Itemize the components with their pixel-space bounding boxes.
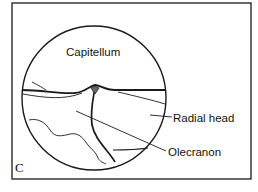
- label-radial-head: Radial head: [173, 112, 234, 124]
- label-capitellum: Capitellum: [66, 46, 120, 58]
- label-olecranon: Olecranon: [168, 146, 221, 158]
- panel-letter: C: [15, 160, 24, 175]
- elbow-arthroscopy-diagram: Capitellum Radial head Olecranon C: [0, 0, 258, 192]
